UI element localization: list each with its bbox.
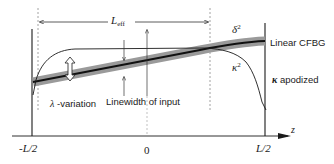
- tick-left-label: -L/2: [19, 143, 37, 154]
- l-eff-subscript: eff: [117, 20, 125, 28]
- delta-superscript: 2: [237, 23, 241, 31]
- linewidth-label: Linewidth of input: [106, 97, 180, 107]
- kappa-superscript: 2: [237, 61, 241, 69]
- l-eff-label: Leff: [111, 15, 125, 28]
- tick-right-label: L/2: [256, 143, 271, 154]
- linear-cfbg-label: Linear CFBG: [270, 38, 325, 48]
- kappa-apodized-label: κ apodized: [272, 75, 319, 85]
- lambda-text: -variation: [54, 98, 96, 109]
- axis-z-label: z: [291, 125, 295, 135]
- lambda-variation-arrow: [65, 57, 75, 81]
- kappa-squared-label: κ2: [232, 62, 241, 73]
- lambda-variation-label: λ -variation: [50, 99, 96, 109]
- diagram-canvas: Leff δ2 κ2 Linear CFBG κ apodized λ -var…: [0, 0, 334, 164]
- z-axis: [12, 133, 291, 139]
- tick-zero-label: 0: [144, 145, 150, 156]
- delta-squared-label: δ2: [232, 24, 241, 35]
- kappa-apodized-text: apodized: [277, 74, 318, 85]
